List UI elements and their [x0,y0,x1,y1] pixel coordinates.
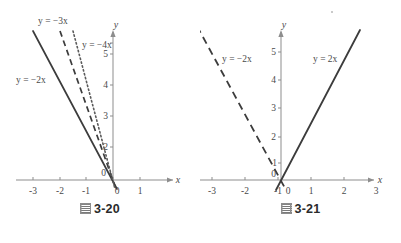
y-tick-label: 5 [103,49,108,59]
y-tick-label: 1 [272,158,277,168]
y-axis-3-21 [278,30,284,181]
series-annotation-y-eq-minus-2x: y = −2x [222,54,252,64]
plot-area-3-21: -3 -2 -1 0 1 2 3 0 1 2 3 4 5 x y y = −2x… [200,0,401,200]
x-axis-title: x [175,174,181,185]
x-tick-label: 1 [309,186,314,196]
x-tick-label: -2 [241,186,249,196]
y-tick-label: 3 [271,103,276,113]
y-tick-label: 5 [271,47,276,57]
figure-number: 3-21 [295,202,321,216]
y-axis-3-20 [110,30,116,181]
series-annotation-y-eq-2x: y = 2x [313,54,338,64]
y-axis-title: y [281,19,287,30]
x-axis-title: x [377,174,383,185]
x-tick-label: 0 [286,186,291,196]
series-annotation-y-eq-minus-3x: y = −3x [38,16,68,26]
chart-3-20: -3 -2 -1 0 1 0 2 3 4 5 x y y = −3x y = −… [0,0,200,200]
x-axis-3-20 [16,177,173,183]
x-tick-label: -3 [29,186,37,196]
figure-symbol-icon [281,203,292,214]
plot-area-3-20: -3 -2 -1 0 1 0 2 3 4 5 x y y = −3x y = −… [0,0,200,200]
chart-3-21: -3 -2 -1 0 1 2 3 0 1 2 3 4 5 x y y = −2x… [200,0,401,200]
x-tick-label: 3 [374,186,379,196]
y-tick-label: 4 [271,75,276,85]
y-axis-title: y [113,19,119,30]
y-tick-label: 2 [271,132,276,142]
figure-number: 3-20 [94,202,120,216]
x-tick-label: 2 [342,186,347,196]
x-tick-label: -2 [56,186,64,196]
x-axis-3-21 [200,177,374,183]
series-line-y-eq-minus-4x [73,31,115,189]
y-tick-label: 4 [103,80,108,90]
figure-3-21: -3 -2 -1 0 1 2 3 0 1 2 3 4 5 x y y = −2x… [200,0,401,243]
figure-symbol-icon [80,203,91,214]
series-annotation-y-eq-minus-4x: y = −4x [82,40,112,50]
y-tick-label: 0 [101,168,106,178]
x-tick-label: 1 [138,186,143,196]
x-tick-label: -3 [208,186,216,196]
y-tick-label: 3 [103,111,108,121]
figure-caption-3-20: 3-20 [0,202,200,216]
figure-caption-3-21: 3-21 [200,202,401,216]
series-annotation-y-eq-minus-2x: y = −2x [16,75,46,85]
figure-3-20: -3 -2 -1 0 1 0 2 3 4 5 x y y = −3x y = −… [0,0,200,243]
x-tick-label: -1 [82,186,90,196]
